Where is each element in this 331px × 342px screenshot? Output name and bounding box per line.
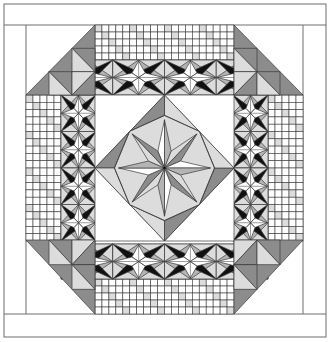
checker-cell [296,132,303,139]
checker-cell [33,124,40,131]
checker-cell [151,46,158,53]
checker-cell [213,307,220,314]
checker-cell [33,205,40,212]
checker-cell [40,205,47,212]
checker-cell [178,32,185,39]
checker-cell [275,226,282,233]
checker-cell [54,190,61,197]
checker-cell [165,32,172,39]
checker-cell [289,153,296,160]
checker-cell [282,132,289,139]
checker-cell [268,102,275,109]
checker-cell [144,279,151,286]
checker-cell [158,25,165,32]
checker-cell [199,46,206,53]
checker-cell [192,279,199,286]
checker-cell [171,32,178,39]
checker-cell [116,293,123,300]
checker-cell [40,102,47,109]
checker-cell [275,132,282,139]
checker-cell [289,117,296,124]
checker-cell [47,168,54,175]
checker-cell [165,307,172,314]
checker-cell [54,205,61,212]
checker-cell [47,110,54,117]
checker-cell [54,219,61,226]
checker-cell [282,197,289,204]
checker-cell [268,168,275,175]
checker-cell [130,279,137,286]
checker-cell [95,25,102,32]
checker-cell [26,183,33,190]
checker-cell [116,46,123,53]
checker-cell [213,300,220,307]
checker-cell [199,25,206,32]
checker-cell [178,286,185,293]
star-band-left [61,95,96,241]
checker-cell [171,300,178,307]
checker-cell [102,307,109,314]
checker-cell [227,293,234,300]
checker-cell [275,153,282,160]
checker-cell [95,307,102,314]
checker-cell [185,300,192,307]
checker-cell [151,53,158,60]
checker-cell [282,95,289,102]
checker-cell [116,25,123,32]
checker-cell [33,110,40,117]
checker-cell [54,161,61,168]
star-block [113,244,165,279]
checker-cell [165,293,172,300]
checker-cell [137,53,144,60]
checker-cell [268,219,275,226]
checker-cell [220,46,227,53]
checker-cell [199,39,206,46]
checker-cell [185,46,192,53]
checker-cell [185,293,192,300]
checker-cell [151,25,158,32]
checker-cell [33,219,40,226]
checker-cell [282,124,289,131]
checker-cell [220,39,227,46]
checker-cell [192,32,199,39]
checker-cell [158,307,165,314]
checker-cell [199,293,206,300]
checker-cell [47,117,54,124]
checker-cell [220,25,227,32]
checker-cell [171,39,178,46]
checker-cell [178,293,185,300]
checker-cell [144,300,151,307]
checker-cell [178,39,185,46]
checker-cell [199,286,206,293]
checker-cell [289,110,296,117]
checker-cell [137,307,144,314]
checker-cell [213,25,220,32]
checker-cell [275,219,282,226]
star-block [61,205,96,242]
checker-cell [40,168,47,175]
checker-cell [144,293,151,300]
checker-cell [206,39,213,46]
checker-cell [206,279,213,286]
checker-cell [296,161,303,168]
checker-cell [289,205,296,212]
checker-cell [268,110,275,117]
checker-cell [116,300,123,307]
checker-cell [130,300,137,307]
star-block [233,95,268,132]
checker-cell [137,32,144,39]
checker-cell [109,293,116,300]
checker-cell [26,175,33,182]
checker-cell [47,161,54,168]
checker-cell [54,168,61,175]
checker-cell [192,39,199,46]
checker-cell [47,197,54,204]
checker-cell [26,124,33,131]
checker-cell [268,124,275,131]
checker-cell [165,39,172,46]
checker-cell [227,279,234,286]
checker-cell [171,307,178,314]
checker-cell [26,139,33,146]
checker-cell [40,175,47,182]
checker-cell [130,53,137,60]
